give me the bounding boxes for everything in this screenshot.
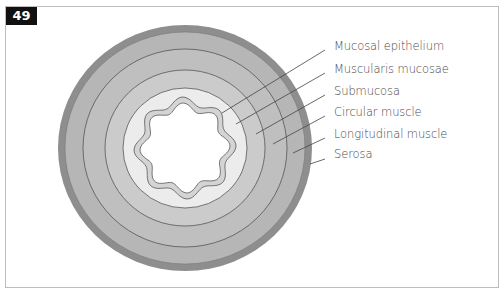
lumen-boundary [140,103,230,193]
label-submucosa: Submucosa [334,84,400,98]
label-longitudinal-muscle: Longitudinal muscle [334,127,447,141]
label-muscularis-mucosae: Muscularis mucosae [334,62,449,76]
figure-number-badge: 49 [6,7,37,25]
label-circular-muscle: Circular muscle [334,105,422,119]
leader-line-serosa [310,159,325,164]
mucosa-lumen [134,97,236,199]
label-mucosal-epithelium: Mucosal epithelium [334,39,444,53]
label-serosa: Serosa [334,147,372,161]
